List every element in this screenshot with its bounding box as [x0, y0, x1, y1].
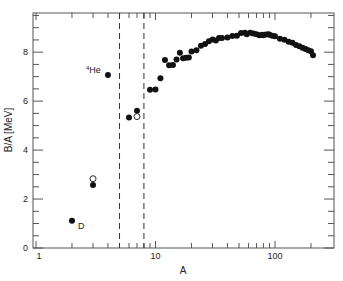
filled-data-point	[90, 182, 96, 188]
plot-frame	[33, 13, 334, 248]
filled-data-point	[310, 52, 316, 58]
y-tick-label: 0	[23, 243, 28, 253]
x-axis-label: A	[180, 265, 187, 276]
filled-data-point	[174, 57, 180, 63]
filled-data-point	[153, 86, 159, 92]
y-axis-label: B/A [MeV]	[3, 108, 14, 153]
y-tick-label: 6	[23, 96, 28, 106]
filled-data-point	[219, 35, 225, 41]
x-tick-label: 100	[267, 251, 282, 261]
filled-data-point	[157, 75, 163, 81]
filled-data-point	[69, 218, 75, 224]
annotation-d: D	[78, 221, 85, 231]
filled-data-point	[105, 72, 111, 78]
filled-data-point	[162, 57, 168, 63]
binding-energy-chart: 11010002468 D4He A B/A [MeV]	[0, 0, 343, 281]
filled-data-point	[186, 55, 192, 61]
x-tick-label: 10	[150, 251, 160, 261]
open-data-point	[134, 114, 140, 120]
filled-data-point	[177, 50, 183, 56]
dashed-boundary-lines	[120, 13, 144, 248]
y-tick-label: 4	[23, 145, 28, 155]
y-tick-label: 2	[23, 194, 28, 204]
plot-border	[33, 13, 334, 248]
filled-data-point	[193, 47, 199, 53]
annotation-he: 4He	[86, 65, 101, 75]
annotations: D4He	[78, 65, 101, 231]
filled-data-point	[134, 108, 140, 114]
filled-data-point	[170, 62, 176, 68]
x-tick-label: 1	[36, 251, 41, 261]
filled-data-point	[126, 115, 132, 121]
y-tick-label: 8	[23, 47, 28, 57]
data-points	[69, 30, 316, 224]
filled-data-point	[147, 87, 153, 93]
open-data-point	[90, 176, 96, 182]
